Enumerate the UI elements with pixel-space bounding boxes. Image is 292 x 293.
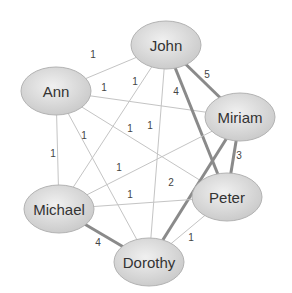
node-label: Dorothy [123,254,176,271]
edge-weight-label: 4 [173,86,179,97]
edge-weight-label: 1 [50,148,56,159]
edge-weight-label: 1 [132,76,138,87]
edge-weight-label: 1 [127,189,133,200]
edge-weight-label: 1 [147,120,153,131]
graph-diagram: JohnAnnMiriamMichaelPeterDorothy 1111111… [0,0,292,293]
edge-weight-label: 5 [204,69,210,80]
edge-weight-label: 1 [90,49,96,60]
node-ann: Ann [21,67,91,115]
edge-weight-label: 1 [116,162,122,173]
edge-weight-label: 1 [188,232,194,243]
node-miriam: Miriam [205,93,275,141]
edge-john-dorothy [149,45,166,262]
edge-weight-label: 1 [127,123,133,134]
edge-weight-label: 3 [236,150,242,161]
node-john: John [131,21,201,69]
node-dorothy: Dorothy [114,238,184,286]
edge-weight-label: 1 [101,82,107,93]
node-label: John [150,37,183,54]
node-peter: Peter [192,173,262,221]
edge-weight-label: 4 [95,237,101,248]
node-label: Miriam [218,109,263,126]
node-label: Peter [209,189,245,206]
node-michael: Michael [24,185,94,233]
edge-weight-label: 2 [168,177,174,188]
edge-weight-label: 1 [81,130,87,141]
node-label: Ann [43,83,70,100]
node-label: Michael [33,201,85,218]
